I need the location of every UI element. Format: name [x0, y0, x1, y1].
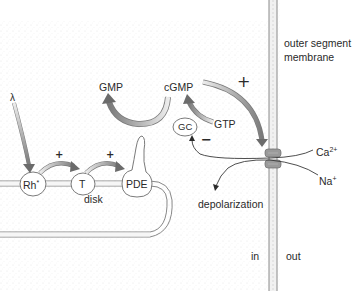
plus-sign-cgmp-channel: +	[237, 74, 250, 90]
depolarization-label: depolarization	[198, 199, 263, 210]
transducin-label: T	[79, 179, 85, 190]
gmp-label: GMP	[99, 82, 123, 93]
outer-segment-membrane	[269, 0, 277, 291]
gc-label: GC	[178, 122, 192, 132]
lambda-label: λ	[10, 93, 15, 103]
rhodopsin-active-mark: *	[36, 179, 39, 186]
disk-label: disk	[84, 194, 103, 205]
pde-label: PDE	[126, 179, 148, 190]
calcium-text: Ca	[316, 146, 329, 158]
rhodopsin-label: Rh*	[23, 179, 39, 191]
sodium-label: Na+	[319, 175, 337, 187]
gtp-label: GTP	[214, 119, 236, 130]
calcium-label: Ca2+	[316, 146, 337, 158]
phototransduction-diagram: λ Rh* T PDE + + GMP cGMP GC GTP − + disk…	[0, 0, 360, 291]
membrane-label-line2: membrane	[284, 52, 334, 63]
plus-sign-rh-t: +	[55, 150, 63, 160]
outside-label: out	[286, 251, 301, 262]
minus-sign-ca-gc: −	[201, 133, 212, 146]
inside-label: in	[251, 251, 259, 262]
cytoplasm-background	[0, 20, 268, 291]
rhodopsin-text: Rh	[23, 179, 36, 191]
sodium-charge: +	[332, 175, 336, 182]
cgmp-label: cGMP	[164, 82, 193, 93]
sodium-text: Na	[319, 175, 332, 187]
plus-sign-t-pde: +	[106, 150, 114, 160]
membrane-label-line1: outer segment	[284, 38, 351, 49]
calcium-charge: 2+	[329, 146, 337, 153]
